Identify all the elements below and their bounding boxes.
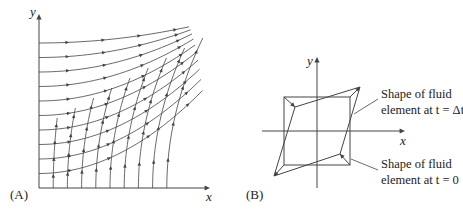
streamline-bottom (82, 98, 94, 188)
streamline-arrow-icon (166, 158, 169, 162)
streamline-bottom (110, 78, 130, 188)
streamline-arrow-icon (137, 34, 141, 37)
streamline-arrow-icon (123, 164, 126, 168)
figure: y x (A) y x (B) Shape of fluid element a… (0, 0, 463, 210)
streamline-arrow-icon (141, 131, 144, 135)
panel-b-label: (B) (246, 187, 263, 202)
panel-b-y-label: y (307, 53, 313, 68)
streamline-arrow-icon (72, 114, 75, 118)
streamline-arrow-icon (67, 153, 70, 157)
streamline-arrow-icon (173, 28, 177, 31)
streamline-arrow-icon (67, 126, 71, 129)
annotation-t-0-line1: Shape of fluid (381, 156, 459, 172)
streamline-arrow-icon (138, 162, 141, 166)
streamline-arrow-icon (181, 86, 184, 90)
streamline-arrow-icon (103, 77, 107, 80)
annotation-t-dt: Shape of fluid element at t = Δt (381, 86, 463, 118)
streamline-arrow-icon (117, 113, 120, 117)
streamline-bottom (67, 108, 75, 188)
annotation-t-dt-line2: element at t = Δt (381, 102, 463, 118)
streamline-arrow-icon (146, 135, 150, 138)
annotation-t-0: Shape of fluid element at t = 0 (381, 156, 459, 188)
annotation-t-0-line2: element at t = 0 (381, 172, 459, 188)
streamline-arrow-icon (174, 34, 178, 37)
streamline-arrow-icon (171, 122, 174, 126)
panel-a-label: (A) (10, 187, 28, 202)
streamline-arrow-icon (180, 62, 184, 66)
streamline-arrow-icon (66, 69, 70, 72)
streamline-arrow-icon (138, 44, 142, 47)
streamline-arrow-icon (124, 87, 127, 91)
leader-line-t0 (351, 159, 378, 170)
streamline-left (39, 69, 200, 144)
panel-a-x-label: x (206, 189, 212, 204)
streamline-left (39, 27, 189, 43)
streamline-arrow-icon (101, 38, 105, 41)
streamline-arrow-icon (152, 160, 155, 164)
streamline-arrow-icon (52, 174, 55, 178)
streamline-arrow-icon (94, 168, 97, 172)
streamline-arrow-icon (52, 157, 55, 161)
streamline-arrow-icon (85, 127, 88, 131)
streamline-left (39, 45, 195, 101)
streamline-arrow-icon (68, 169, 72, 172)
streamline-arrow-icon (67, 112, 71, 115)
streamline-left (39, 79, 201, 159)
streamline-arrow-icon (66, 172, 69, 176)
streamline-arrow-icon (109, 166, 112, 170)
streamline-arrow-icon (53, 140, 56, 144)
streamline-arrow-icon (65, 41, 69, 44)
streamline-arrow-icon (80, 170, 83, 174)
panel-b-y-arrow-icon (314, 57, 319, 62)
panel-a-y-label: y (30, 4, 36, 19)
streamline-arrow-icon (102, 51, 106, 54)
streamline-left (39, 39, 194, 87)
panel-a-y-arrow-icon (36, 14, 41, 19)
leader-line-tdt (354, 99, 378, 114)
streamline-arrow-icon (101, 120, 104, 124)
streamline-arrow-icon (139, 54, 143, 57)
streamline-arrow-icon (142, 78, 145, 82)
streamline-arrow-icon (66, 55, 70, 58)
annotation-t-dt-line1: Shape of fluid (381, 86, 463, 102)
panel-b-x-label: x (400, 133, 406, 148)
streamline-arrow-icon (102, 64, 106, 67)
